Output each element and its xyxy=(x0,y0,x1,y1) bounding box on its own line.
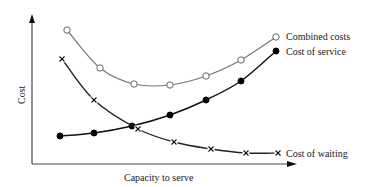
x-marker-icon xyxy=(135,126,142,133)
open-circle-marker-icon xyxy=(64,27,70,33)
y-axis-arrow-icon xyxy=(29,14,35,23)
y-axis-label: Cost xyxy=(16,85,27,104)
open-circle-marker-icon xyxy=(203,73,209,79)
open-circle-marker-icon xyxy=(167,82,173,88)
cost-capacity-chart: Combined costs Cost of service Cost of w… xyxy=(0,0,370,187)
x-marker-icon xyxy=(59,56,66,63)
axes xyxy=(29,14,297,167)
open-circle-marker-icon xyxy=(131,81,137,87)
x-axis-label: Capacity to serve xyxy=(124,172,194,183)
x-marker-icon xyxy=(91,97,98,104)
x-marker-icon xyxy=(171,139,178,146)
label-combined-costs: Combined costs xyxy=(286,31,350,42)
filled-circle-marker-icon xyxy=(167,112,173,118)
x-marker-icon xyxy=(243,150,250,157)
label-cost-of-service: Cost of service xyxy=(286,46,347,57)
open-circle-marker-icon xyxy=(238,57,244,63)
filled-circle-marker-icon xyxy=(238,78,244,84)
x-marker-icon xyxy=(208,146,215,153)
open-circle-marker-icon xyxy=(273,34,279,40)
series-cost-of-waiting xyxy=(59,56,282,157)
series-cost-of-service xyxy=(57,48,279,139)
filled-circle-marker-icon xyxy=(57,133,63,139)
filled-circle-marker-icon xyxy=(273,48,279,54)
filled-circle-marker-icon xyxy=(91,130,97,136)
x-marker-icon xyxy=(275,150,282,157)
x-axis-arrow-icon xyxy=(287,161,297,167)
filled-circle-marker-icon xyxy=(203,97,209,103)
open-circle-marker-icon xyxy=(97,65,103,71)
series-combined-costs xyxy=(64,27,279,88)
label-cost-of-waiting: Cost of waiting xyxy=(286,148,348,159)
